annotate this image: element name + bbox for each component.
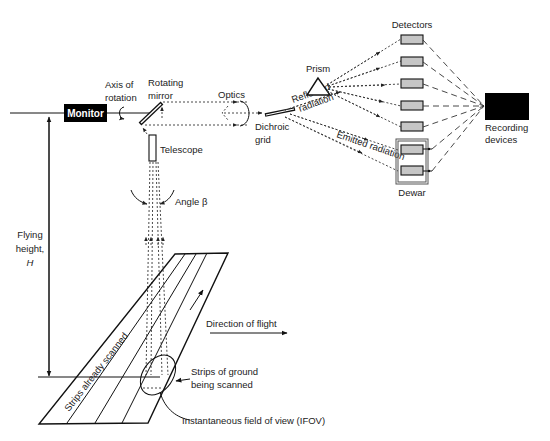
prism-label: Prism xyxy=(306,63,330,74)
detectors-label: Detectors xyxy=(392,19,433,30)
dewar-label: Dewar xyxy=(398,187,425,198)
flying-height-label-1: Flying xyxy=(17,229,42,240)
mirror-label-2: mirror xyxy=(148,90,173,101)
telescope xyxy=(149,135,156,161)
dewar-detector-2 xyxy=(401,166,423,175)
direction-label: Direction of flight xyxy=(206,318,277,329)
dichroic-label-1: Dichroic xyxy=(255,121,290,132)
recording-label-2: devices xyxy=(485,134,517,145)
ifov-label: Instantaneous field of view (IFOV) xyxy=(182,415,325,426)
recording-devices-box xyxy=(485,93,529,120)
axis-label-1: Axis of xyxy=(105,79,134,90)
optics-lens xyxy=(240,101,249,126)
mirror-label-1: Rotating xyxy=(148,77,183,88)
strips-ground-label-2: being scanned xyxy=(191,379,253,390)
monitor-label: Monitor xyxy=(67,108,104,119)
strips-scanned-label: Strips already scanned xyxy=(62,330,130,413)
angle-label: Angle β xyxy=(175,196,208,207)
strips-ground-arrow-icon xyxy=(176,379,190,381)
ifov-ellipse xyxy=(133,348,183,401)
scan-beams xyxy=(146,162,168,375)
flying-height-symbol: H xyxy=(27,257,34,268)
detector-4 xyxy=(401,101,423,110)
flying-height-label-2: height, xyxy=(16,243,45,254)
axis-label-2: rotation xyxy=(105,92,137,103)
strips-ground-label-1: Strips of ground xyxy=(191,366,258,377)
optics-label: Optics xyxy=(218,89,245,100)
detector-1 xyxy=(401,35,423,44)
dichroic-label-2: grid xyxy=(255,134,271,145)
dewar-detector-1 xyxy=(401,145,423,154)
angle-arrow-right-icon xyxy=(160,190,174,204)
angle-arrow-left-icon xyxy=(131,190,147,204)
detector-5 xyxy=(401,122,423,131)
flight-arrow-small-icon xyxy=(190,290,203,310)
recording-label-1: Recording xyxy=(485,122,528,133)
detector-2 xyxy=(401,57,423,66)
prism-to-detectors xyxy=(327,39,401,127)
detectors-to-recorder xyxy=(423,40,484,171)
detector-3 xyxy=(401,79,423,88)
telescope-label: Telescope xyxy=(160,144,203,155)
scanner-diagram: Flying height, H Monitor Axis of rotatio… xyxy=(0,0,550,441)
